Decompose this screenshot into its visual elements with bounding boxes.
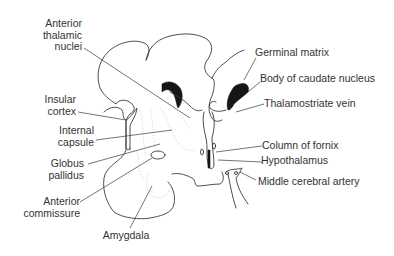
leader-thalamostriate-vein bbox=[236, 104, 264, 112]
leader-germinal-matrix bbox=[244, 58, 256, 80]
insula-stem bbox=[126, 120, 130, 150]
right-gyrus-outline bbox=[212, 50, 244, 78]
label-line: cortex bbox=[26, 106, 76, 118]
basal-ganglia-faint-2 bbox=[150, 108, 156, 150]
label-hypothalamus: Hypothalamus bbox=[261, 155, 328, 167]
mca-dot-1 bbox=[226, 172, 229, 175]
label-line: nuclei bbox=[26, 41, 82, 53]
mca-stalk-left bbox=[228, 174, 236, 208]
leader-middle-cerebral-artery bbox=[240, 172, 256, 180]
label-line: Globus bbox=[30, 158, 84, 170]
fornix-oval-left bbox=[201, 149, 204, 155]
label-line: pallidus bbox=[30, 170, 84, 182]
leader-hypothalamus bbox=[218, 160, 262, 162]
leader-amygdala bbox=[130, 186, 152, 228]
left-hemisphere-outline bbox=[98, 41, 174, 219]
leader-body-of-caudate bbox=[248, 82, 260, 92]
leader-internal-capsule bbox=[96, 130, 172, 140]
label-internal-capsule: Internal capsule bbox=[40, 125, 94, 148]
fornix-column bbox=[208, 150, 210, 168]
label-anterior-commissure: Anterior commissure bbox=[14, 196, 80, 219]
inferior-outline bbox=[172, 172, 223, 186]
label-germinal-matrix: Germinal matrix bbox=[255, 47, 329, 59]
label-line: Anterior bbox=[14, 196, 80, 208]
label-line: commissure bbox=[14, 208, 80, 220]
amygdala-faint bbox=[146, 172, 170, 198]
leader-column-of-fornix bbox=[216, 146, 262, 152]
label-body-of-caudate-nucleus: Body of caudate nucleus bbox=[260, 73, 375, 85]
caudate-left-black bbox=[162, 82, 182, 108]
label-amygdala: Amygdala bbox=[98, 230, 154, 242]
leader-globus-pallidus bbox=[88, 144, 160, 164]
leader-anterior-commissure bbox=[80, 158, 152, 202]
fornix-oval-right bbox=[213, 143, 216, 149]
basal-ganglia-faint-3 bbox=[160, 108, 196, 151]
label-column-of-fornix: Column of fornix bbox=[262, 140, 338, 152]
label-insular-cortex: Insular cortex bbox=[26, 94, 76, 117]
globus-pallidus-oval bbox=[151, 151, 165, 159]
insula-gyrus bbox=[104, 107, 137, 150]
label-line: Anterior bbox=[26, 18, 82, 30]
label-line: Internal bbox=[40, 125, 94, 137]
ventricle-right bbox=[209, 101, 226, 111]
label-middle-cerebral-artery: Middle cerebral artery bbox=[258, 176, 360, 188]
label-anterior-thalamic-nuclei: Anterior thalamic nuclei bbox=[26, 18, 82, 53]
leader-insular-cortex bbox=[78, 112, 126, 120]
caudate-right-black bbox=[227, 83, 248, 110]
mca-dot-2 bbox=[235, 172, 238, 175]
label-globus-pallidus: Globus pallidus bbox=[30, 158, 84, 181]
label-line: Insular bbox=[26, 94, 76, 106]
label-line: Amygdala bbox=[98, 230, 154, 242]
label-line: capsule bbox=[40, 137, 94, 149]
label-thalamostriate-vein: Thalamostriate vein bbox=[264, 98, 356, 110]
